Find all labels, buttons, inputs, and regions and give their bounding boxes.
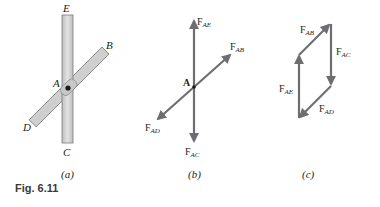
label-e: E <box>62 2 70 14</box>
label-c-f-ab: FAB <box>300 24 315 37</box>
panel-b: A FAE FAB FAD FAC (b) <box>145 16 245 181</box>
label-a-b: A <box>183 77 191 88</box>
panel-a: E B A D C (a) <box>22 2 113 181</box>
label-a: A <box>52 77 60 89</box>
arrow-f-ad <box>158 87 194 119</box>
label-f-ad: FAD <box>145 122 160 135</box>
panel-c-caption: (c) <box>302 168 315 181</box>
label-c-f-ac: FAC <box>336 46 351 59</box>
label-c-f-ae: FAE <box>279 83 294 96</box>
label-f-ac: FAC <box>185 146 200 159</box>
figure-canvas: E B A D C (a) A FAE FAB FAD FAC (b) FAB … <box>0 0 380 207</box>
label-f-ab: FAB <box>230 41 245 54</box>
point-a <box>192 85 196 89</box>
label-b: B <box>106 39 113 51</box>
pin-a <box>65 85 70 90</box>
figure-caption: Fig. 6.11 <box>15 182 58 194</box>
arrow-f-ab <box>194 55 230 87</box>
label-d: D <box>22 121 31 133</box>
panel-a-caption: (a) <box>61 168 74 181</box>
panel-b-caption: (b) <box>188 168 201 181</box>
label-c: C <box>63 146 71 158</box>
label-c-f-ad: FAD <box>319 103 334 116</box>
label-f-ae: FAE <box>197 16 212 29</box>
panel-c: FAB FAC FAE FAD (c) <box>279 24 351 181</box>
